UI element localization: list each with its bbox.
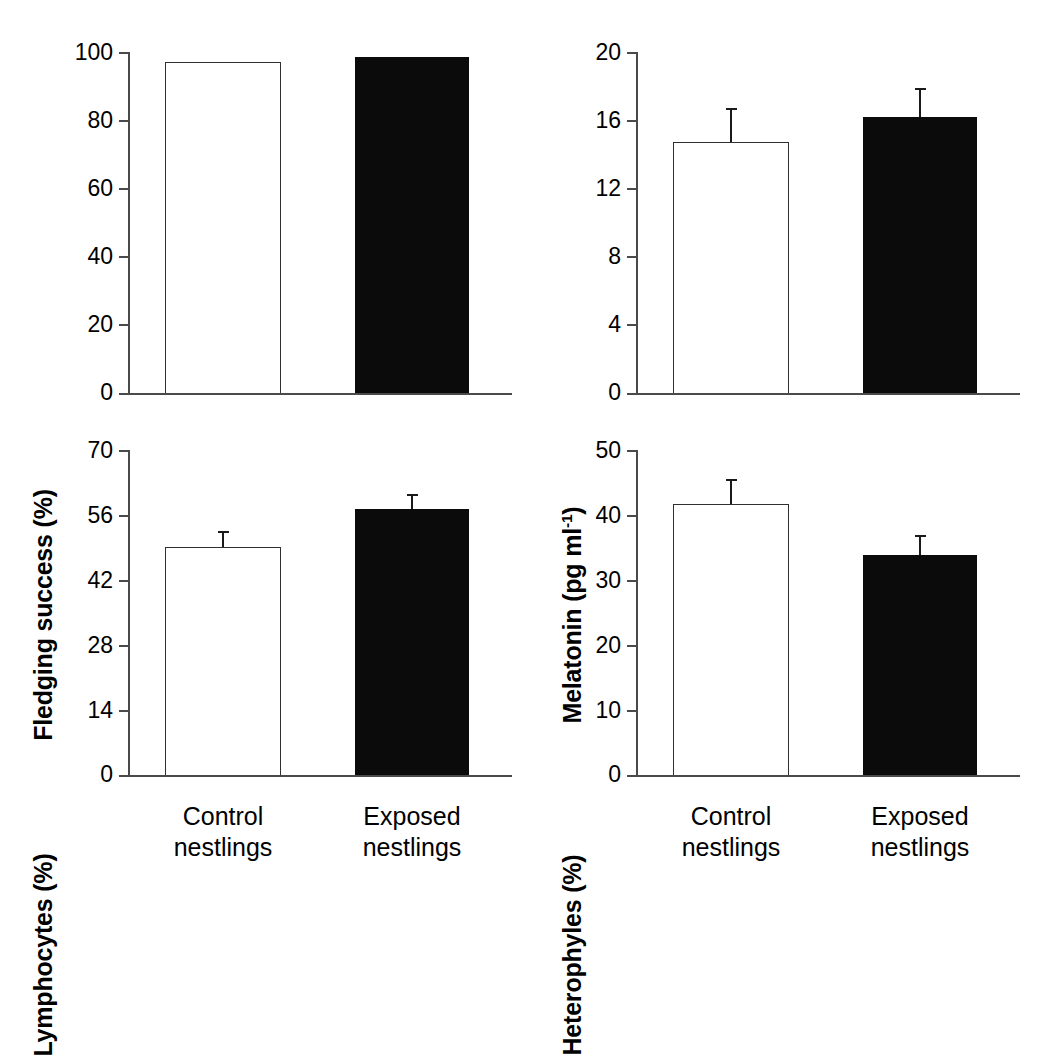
y-tick-20: [119, 324, 128, 326]
panel-melatonin: Melatonin (pg ml-1) 0 4 8 12 16 20: [529, 0, 1058, 430]
x-label-line2: nestlings: [153, 832, 293, 863]
y-tick-0: [627, 393, 636, 395]
error-bar-stem: [730, 108, 732, 142]
y-tick-0: [627, 775, 636, 777]
y-ticklabel-14: 14: [58, 699, 113, 722]
panel-fledging-success: Fledging success (%) 0 20 40 60 80 100: [0, 0, 529, 430]
error-bar-stem: [919, 88, 921, 117]
x-label-line1: Exposed: [850, 801, 990, 832]
error-bar-cap: [726, 108, 737, 110]
plot-area-lymphocytes: 0 14 28 42 56 70 Control nestlings: [0, 430, 529, 897]
y-ticklabel-80: 80: [58, 109, 113, 132]
y-axis-spine: [636, 52, 638, 395]
error-bar-stem: [919, 535, 921, 555]
y-tick-60: [119, 188, 128, 190]
y-tick-56: [119, 515, 128, 517]
x-axis-spine: [629, 393, 1020, 395]
y-tick-50: [627, 450, 636, 452]
y-tick-4: [627, 324, 636, 326]
x-label-exposed-lymphocytes: Exposed nestlings: [342, 801, 482, 864]
y-ticklabel-0: 0: [58, 381, 113, 404]
y-tick-40: [627, 515, 636, 517]
x-label-line1: Control: [153, 801, 293, 832]
y-ticklabel-16: 16: [566, 109, 621, 132]
y-ticklabel-10: 10: [566, 699, 621, 722]
y-ticklabel-70: 70: [58, 439, 113, 462]
y-axis-spine: [128, 52, 130, 395]
error-bar-exposed-melatonin: [895, 88, 945, 117]
bar-exposed-melatonin: [863, 117, 977, 393]
y-axis-spine: [128, 450, 130, 777]
y-tick-40: [119, 256, 128, 258]
error-bar-control-lymphocytes: [198, 531, 248, 547]
panel-lymphocytes: Lymphocytes (%) 0 14 28 42 56 70: [0, 430, 529, 897]
y-ticklabel-20: 20: [566, 41, 621, 64]
y-ticklabel-56: 56: [58, 504, 113, 527]
y-tick-14: [119, 710, 128, 712]
x-label-line1: Exposed: [342, 801, 482, 832]
bar-control-fledging-success: [165, 62, 281, 393]
x-axis-spine: [121, 775, 512, 777]
error-bar-control-melatonin: [706, 108, 756, 142]
y-tick-70: [119, 450, 128, 452]
y-ticklabel-0: 0: [566, 763, 621, 786]
bar-control-lymphocytes: [165, 547, 281, 775]
y-axis-spine: [636, 450, 638, 777]
y-ticklabel-8: 8: [566, 245, 621, 268]
plot-area-fledging-success: 0 20 40 60 80 100: [0, 0, 529, 430]
x-axis-spine: [629, 775, 1020, 777]
bar-exposed-heterophyles: [863, 555, 977, 775]
x-label-line2: nestlings: [661, 832, 801, 863]
plot-area-melatonin: 0 4 8 12 16 20: [529, 0, 1058, 430]
y-tick-28: [119, 645, 128, 647]
y-tick-20: [627, 645, 636, 647]
y-tick-20: [627, 52, 636, 54]
error-bar-cap: [218, 531, 229, 533]
error-bar-cap: [726, 479, 737, 481]
error-bar-cap: [915, 535, 926, 537]
y-tick-42: [119, 580, 128, 582]
y-ticklabel-4: 4: [566, 313, 621, 336]
y-ticklabel-30: 30: [566, 569, 621, 592]
y-tick-12: [627, 188, 636, 190]
y-tick-10: [627, 710, 636, 712]
error-bar-stem: [222, 531, 224, 547]
y-ticklabel-60: 60: [58, 177, 113, 200]
error-bar-exposed-lymphocytes: [387, 494, 437, 509]
x-label-line1: Control: [661, 801, 801, 832]
y-tick-80: [119, 120, 128, 122]
y-ticklabel-42: 42: [58, 569, 113, 592]
y-tick-0: [119, 775, 128, 777]
y-ticklabel-20: 20: [58, 313, 113, 336]
error-bar-cap: [407, 494, 418, 496]
bar-exposed-fledging-success: [355, 57, 469, 393]
x-label-control-lymphocytes: Control nestlings: [153, 801, 293, 864]
y-ticklabel-20: 20: [566, 634, 621, 657]
error-bar-stem: [730, 479, 732, 504]
x-label-exposed-heterophyles: Exposed nestlings: [850, 801, 990, 864]
y-tick-30: [627, 580, 636, 582]
y-ticklabel-12: 12: [566, 177, 621, 200]
x-label-line2: nestlings: [342, 832, 482, 863]
x-label-control-heterophyles: Control nestlings: [661, 801, 801, 864]
panel-heterophyles: Heterophyles (%) 0 10 20 30 40 50: [529, 430, 1058, 897]
y-ticklabel-40: 40: [566, 504, 621, 527]
error-bar-cap: [915, 88, 926, 90]
y-ticklabel-100: 100: [48, 41, 113, 64]
y-tick-8: [627, 256, 636, 258]
y-tick-16: [627, 120, 636, 122]
y-ticklabel-28: 28: [58, 634, 113, 657]
bar-control-melatonin: [673, 142, 789, 393]
y-ticklabel-50: 50: [566, 439, 621, 462]
y-ticklabel-0: 0: [566, 381, 621, 404]
plot-area-heterophyles: 0 10 20 30 40 50 Control nestlings: [529, 430, 1058, 897]
x-label-line2: nestlings: [850, 832, 990, 863]
bar-exposed-lymphocytes: [355, 509, 469, 775]
bar-control-heterophyles: [673, 504, 789, 775]
y-tick-0: [119, 393, 128, 395]
y-ticklabel-40: 40: [58, 245, 113, 268]
error-bar-exposed-heterophyles: [895, 535, 945, 555]
x-axis-spine: [121, 393, 512, 395]
error-bar-control-heterophyles: [706, 479, 756, 504]
